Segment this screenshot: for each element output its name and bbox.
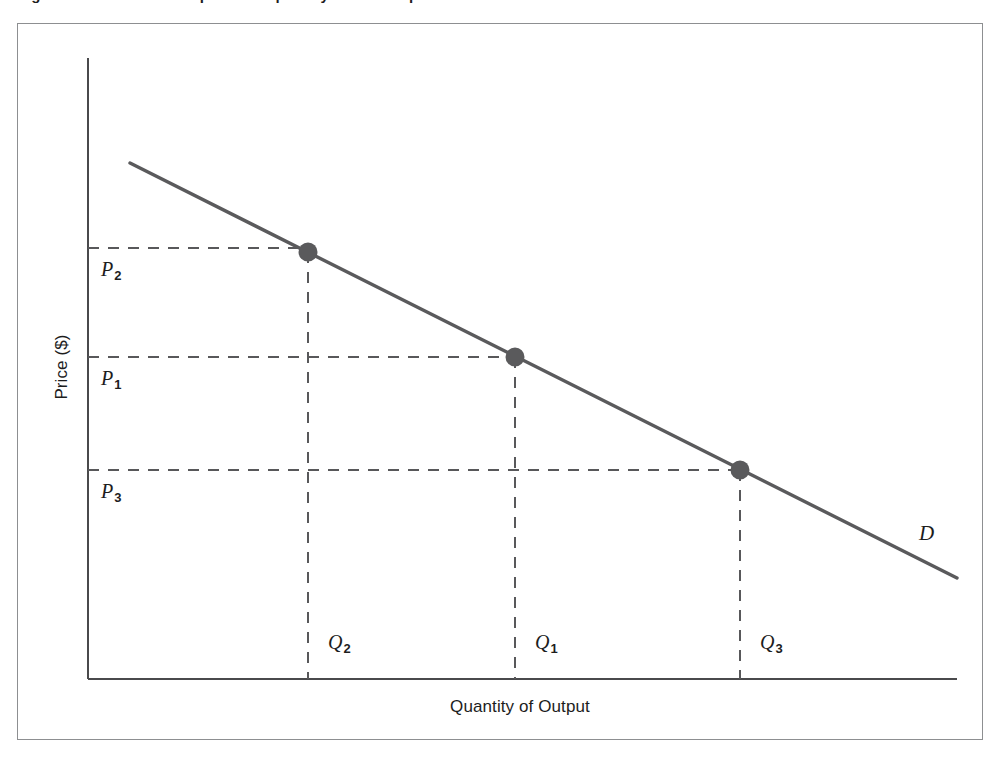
quantity-label-q1: Q1 — [535, 631, 558, 656]
price-label-p1-base: P — [101, 367, 113, 389]
x-axis-title: Quantity of Output — [400, 697, 640, 717]
price-label-p1-subscript: 1 — [113, 377, 121, 392]
figure-caption-strip: Figure: Demand curve — price and quantit… — [0, 0, 1000, 3]
quantity-label-q2: Q2 — [328, 631, 351, 656]
y-axis-title: Price ($) — [52, 287, 72, 447]
quantity-label-q2-subscript: 2 — [342, 641, 350, 656]
price-label-p2-base: P — [101, 258, 113, 280]
price-label-p3: P3 — [101, 480, 121, 505]
quantity-label-q3-subscript: 3 — [774, 641, 782, 656]
figure-frame — [17, 23, 983, 740]
quantity-label-q1-base: Q — [535, 631, 549, 653]
price-label-p1: P1 — [101, 367, 121, 392]
figure-caption-text: Figure: Demand curve — price and quantit… — [0, 0, 1000, 3]
demand-curve-label: D — [919, 521, 934, 546]
price-label-p3-subscript: 3 — [113, 490, 121, 505]
price-label-p3-base: P — [101, 480, 113, 502]
quantity-label-q3: Q3 — [760, 631, 783, 656]
quantity-label-q1-subscript: 1 — [549, 641, 557, 656]
quantity-label-q3-base: Q — [760, 631, 774, 653]
price-label-p2: P2 — [101, 258, 121, 283]
quantity-label-q2-base: Q — [328, 631, 342, 653]
price-label-p2-subscript: 2 — [113, 268, 121, 283]
